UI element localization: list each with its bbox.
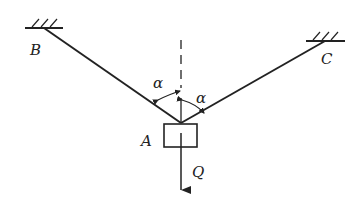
statics-diagram: B C A Q α α [0, 0, 358, 216]
label-a: A [139, 132, 152, 150]
support-c-wall [306, 32, 345, 41]
label-c: C [321, 50, 333, 68]
diagram-canvas: B C A Q α α [0, 0, 358, 216]
label-q: Q [192, 163, 204, 181]
label-alpha-right: α [196, 89, 206, 107]
angle-arc-left [158, 91, 180, 100]
label-alpha-left: α [153, 74, 163, 92]
support-b-wall [25, 19, 63, 28]
label-b: B [29, 41, 41, 59]
